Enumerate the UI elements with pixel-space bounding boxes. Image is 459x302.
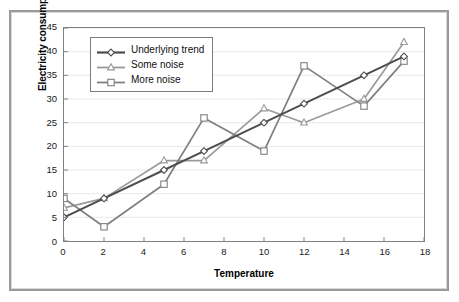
data-point-marker-square [108,79,114,85]
legend-item-triangle[interactable]: Some noise [96,57,204,72]
legend-swatch-square-icon [96,74,126,85]
data-point-marker-diamond [261,119,268,126]
y-axis-tick-label: 45 [31,22,57,32]
data-point-marker-diamond [361,72,368,79]
y-axis-tick-label: 30 [31,94,57,104]
data-point-marker-triangle [401,38,408,44]
y-axis-tick-label: 0 [31,237,57,247]
legend-label: Underlying trend [131,45,204,55]
x-axis-tick-label: 18 [412,247,438,257]
chart-legend: Underlying trendSome noiseMore noise [90,37,213,92]
x-axis-tick-label: 14 [332,247,358,257]
data-point-marker-square [361,103,367,109]
y-axis-tick-label: 35 [31,70,57,80]
legend-label: Some noise [131,60,184,70]
x-axis-tick-label: 2 [90,247,116,257]
y-axis-tick-label: 15 [31,165,57,175]
legend-item-diamond[interactable]: Underlying trend [96,42,204,57]
x-axis-tick-label: 16 [372,247,398,257]
y-axis-tick-label: 10 [31,189,57,199]
data-point-marker-square [301,63,307,69]
x-axis-title: Temperature [63,268,425,279]
data-point-marker-square [101,224,107,230]
y-axis-tick-label: 40 [31,46,57,56]
x-axis-tick-label: 8 [211,247,237,257]
data-point-marker-square [64,195,67,201]
plot-area: Underlying trendSome noiseMore noise [63,27,425,242]
chart-figure: Electricity consumption Temperature 0510… [0,0,459,302]
data-point-marker-diamond [301,100,308,107]
y-axis-tick-label: 5 [31,213,57,223]
x-axis-tick-label: 10 [251,247,277,257]
data-point-marker-diamond [201,148,208,155]
data-point-marker-diamond [161,167,168,174]
data-point-marker-triangle [261,105,268,111]
x-axis-tick-label: 6 [171,247,197,257]
legend-label: More noise [131,75,180,85]
data-point-marker-diamond [108,49,115,56]
data-point-marker-square [161,181,167,187]
x-axis-tick-label: 0 [50,247,76,257]
x-axis-tick-label: 4 [130,247,156,257]
legend-swatch-triangle-icon [96,59,126,70]
x-axis-tick-label: 12 [291,247,317,257]
legend-item-square[interactable]: More noise [96,72,204,87]
data-point-marker-square [261,148,267,154]
y-axis-tick-label: 25 [31,118,57,128]
y-axis-tick-label: 20 [31,141,57,151]
data-point-marker-square [201,115,207,121]
legend-swatch-diamond-icon [96,44,126,55]
